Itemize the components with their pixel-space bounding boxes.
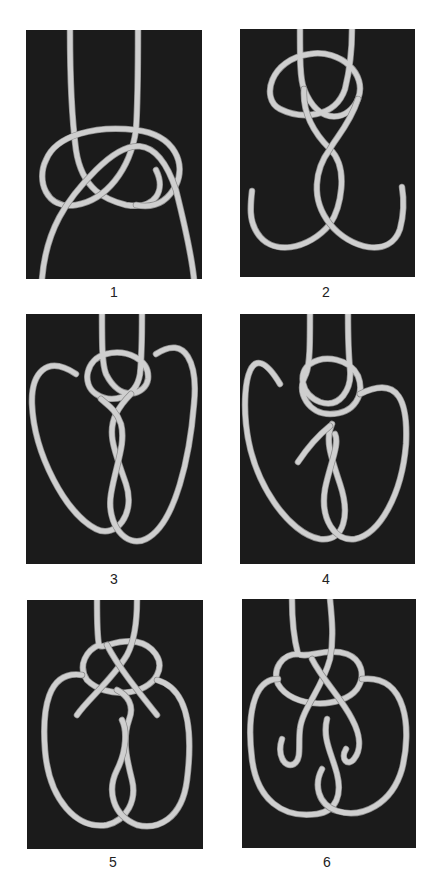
step-label-6: 6: [307, 854, 347, 870]
step-label-2: 2: [306, 284, 346, 300]
rope-diagram-1: [26, 30, 202, 279]
step-label-4: 4: [306, 571, 346, 587]
rope-diagram-4: [240, 314, 415, 564]
step-label-1: 1: [94, 284, 134, 300]
knot-photo-step-5: [27, 600, 203, 849]
rope-diagram-5: [27, 600, 203, 849]
knot-photo-step-1: [26, 30, 202, 279]
step-label-3: 3: [94, 571, 134, 587]
knot-photo-step-4: [240, 314, 415, 564]
rope-diagram-2: [240, 29, 415, 277]
rope-diagram-3: [26, 314, 202, 564]
knot-photo-step-2: [240, 29, 415, 277]
knot-photo-step-3: [26, 314, 202, 564]
step-label-5: 5: [93, 854, 133, 870]
knot-photo-step-6: [242, 599, 416, 848]
rope-diagram-6: [242, 599, 416, 848]
